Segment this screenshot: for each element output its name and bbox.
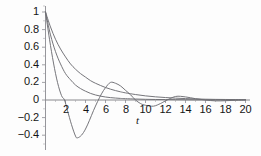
x-tick-label-12: 12 <box>155 103 176 115</box>
chart-container: 1 0.8 0.6 0.4 0.2 0 −0.2 −0.4 2 4 6 8 10… <box>0 0 261 156</box>
y-tick-label-0.6: 0.6 <box>8 40 39 52</box>
x-tick-label-14: 14 <box>175 103 196 115</box>
y-axis-minor-ticks <box>43 6 45 144</box>
y-tick-label-m0.4: −0.4 <box>3 128 39 140</box>
damped-response-plot <box>0 0 261 156</box>
series-layer <box>46 12 246 138</box>
series-curve-underdamped-oscillatory <box>46 12 246 138</box>
x-axis-title: t <box>136 114 139 126</box>
x-tick-label-6: 6 <box>96 103 116 115</box>
y-tick-label-0: 0 <box>8 93 39 105</box>
y-tick-label-1: 1 <box>8 5 39 17</box>
series-curve-overdamped-slow <box>46 12 246 100</box>
x-tick-label-20: 20 <box>235 103 256 115</box>
y-tick-label-0.2: 0.2 <box>8 75 39 87</box>
y-tick-label-m0.2: −0.2 <box>3 111 39 123</box>
y-tick-label-0.4: 0.4 <box>8 58 39 70</box>
x-tick-label-16: 16 <box>195 103 216 115</box>
x-tick-label-18: 18 <box>215 103 236 115</box>
x-tick-label-2: 2 <box>56 103 76 115</box>
x-tick-label-4: 4 <box>76 103 96 115</box>
y-tick-label-0.8: 0.8 <box>8 23 39 35</box>
x-tick-label-8: 8 <box>116 103 136 115</box>
series-curve-critically-damped <box>46 12 246 100</box>
